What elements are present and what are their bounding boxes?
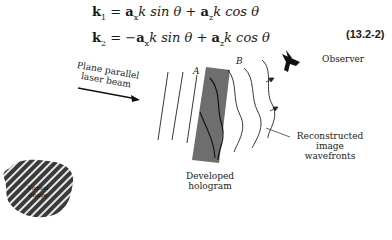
observer-eye-icon (282, 50, 300, 72)
reconstructed-wavefronts (228, 60, 275, 152)
beam-arrow-icon (78, 88, 140, 102)
wavefronts-label-line: Reconstructed (290, 131, 370, 141)
hologram-label-line: Developed (180, 171, 240, 181)
wavefronts-label-line: wavefronts (290, 151, 370, 161)
wavefronts-label-line: image (290, 141, 370, 151)
label-a: A (193, 66, 200, 76)
label-b: B (236, 56, 243, 66)
virtual-label-line: image (18, 191, 58, 198)
hologram-label-line: hologram (180, 181, 240, 191)
virtual-label-line: Virtual (18, 184, 58, 191)
incident-wavefronts (158, 72, 197, 143)
observer-label: Observer (322, 54, 364, 64)
virtual-image-label: Virtual image (18, 184, 58, 198)
hologram-label: Developed hologram (180, 171, 240, 191)
developed-hologram-plate (192, 67, 230, 163)
propagation-arrows (266, 78, 278, 111)
wavefronts-label: Reconstructed image wavefronts (290, 131, 370, 161)
